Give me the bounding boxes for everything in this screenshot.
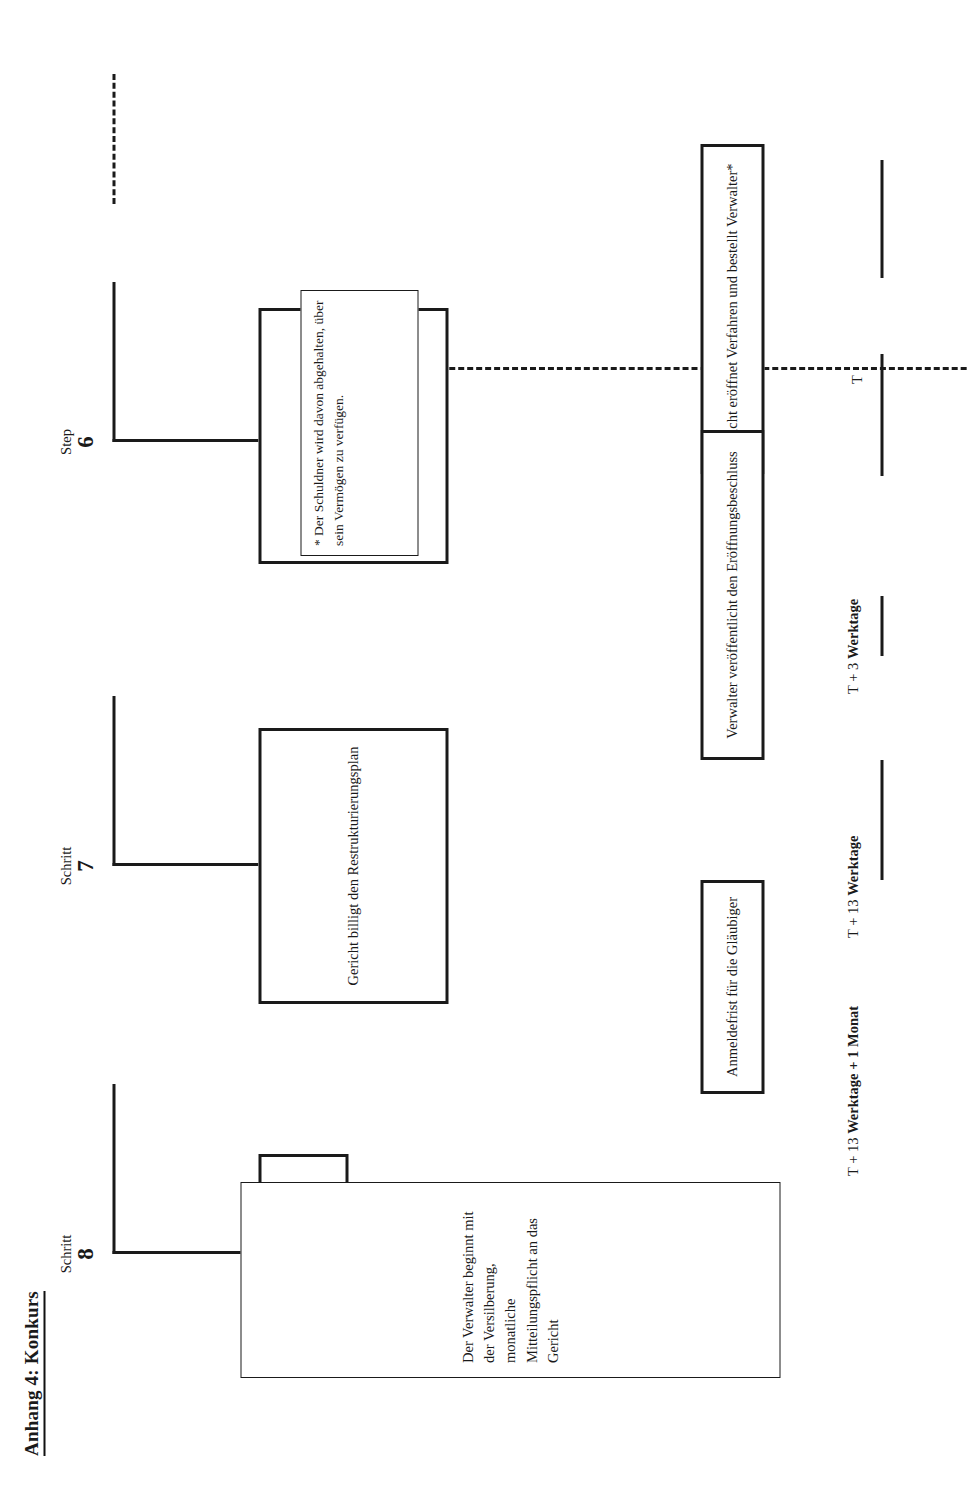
t-label-prefix: T + 13 [844,896,860,938]
step-word: Schritt [58,826,73,906]
t-label-bold: Werktage [844,599,860,659]
box-text: Anmeldefrist für die Gläubiger [721,897,742,1077]
footnote-box: * Der Schuldner wird davon abgehalten, ü… [300,290,418,556]
step-label-7: Schritt 7 [58,826,97,906]
timeline-segment-2 [112,696,115,866]
step-word: Schritt [58,1214,73,1294]
box-text: Gericht billigt den Restrukturierungspla… [342,747,363,986]
document-sheet: Anhang 4: Konkurs Schritt 8 Schritt 7 St… [0,0,967,1494]
t-label-prefix: T + 13 [844,1134,860,1176]
step-word: Step [58,402,73,482]
t-axis-segment-2 [880,596,883,656]
step-number: 7 [73,826,97,906]
step-label-6: Step 6 [58,402,97,482]
timeline-segment-1 [112,1084,115,1254]
box-gericht-billigt: Gericht billigt den Restrukturierungspla… [258,728,448,1004]
t-label-t13-1monat: T + 13 Werktage + 1 Monat [844,1006,861,1176]
step8-stem [112,1252,258,1255]
step6-stem [112,440,258,443]
box-text: Gericht eröffnet Verfahren und bestellt … [721,163,742,454]
box-final-note: Der Verwalter beginnt mit der Versilberu… [240,1182,780,1378]
t-axis-segment-1 [880,760,883,880]
box-verwalter-veroeffentlicht: Verwalter veröffentlicht den Eröffnungsb… [700,430,764,760]
dashed-connector-vertical [368,367,967,370]
t-label-text: T [848,375,864,384]
t-axis-segment-4 [880,160,883,278]
step-label-8: Schritt 8 [58,1214,97,1294]
t-label-t3: T + 3 Werktage [844,599,861,694]
t-label-bold: Werktage + 1 Monat [844,1006,860,1134]
footnote-text: * Der Schuldner wird davon abgehalten, ü… [310,300,345,546]
box-text: Der Verwalter beginnt mit der Versilberu… [457,1197,562,1363]
step-number: 8 [73,1214,97,1294]
timeline-trailing-dash [112,74,115,204]
page-title: Anhang 4: Konkurs [20,1291,45,1456]
timeline-segment-3 [112,282,115,442]
box-anmeldefrist: Anmeldefrist für die Gläubiger [700,880,764,1094]
step-number: 6 [73,402,97,482]
t-label-t0: T [848,375,865,384]
box-text: Verwalter veröffentlicht den Eröffnungsb… [721,451,742,738]
step7-stem [112,864,258,867]
t-axis-segment-3 [880,354,883,476]
t-label-prefix: T + 3 [844,659,860,694]
box-gericht-eroeffnet-verfahren: Gericht eröffnet Verfahren und bestellt … [700,144,764,474]
t-label-t13: T + 13 Werktage [844,835,861,938]
t-label-bold: Werktage [844,835,860,895]
